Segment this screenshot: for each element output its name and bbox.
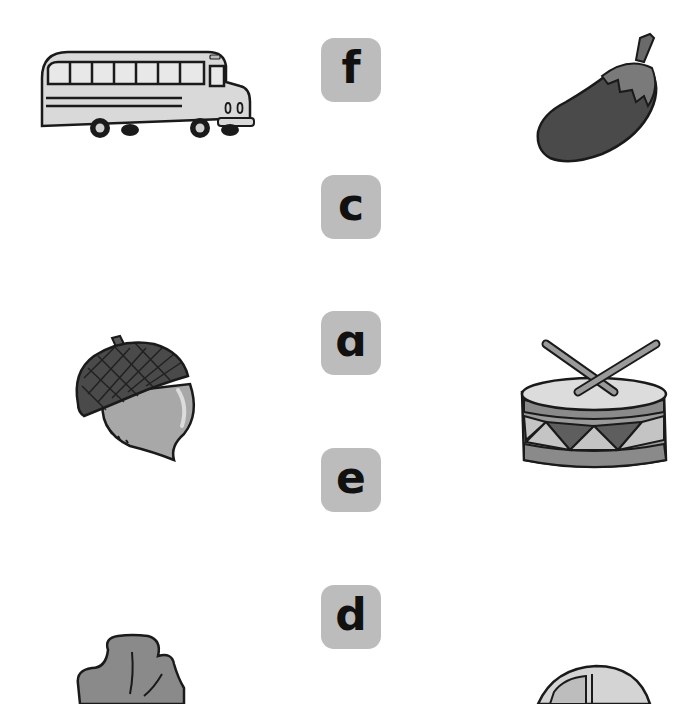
letter-f: f — [341, 46, 360, 90]
car-icon — [534, 664, 652, 704]
eggplant-icon — [536, 32, 660, 164]
letter-tile-c[interactable]: c — [321, 175, 381, 239]
car-picture[interactable] — [534, 664, 652, 704]
clover-icon — [74, 634, 192, 704]
letter-e: e — [336, 456, 366, 500]
acorn-picture[interactable] — [74, 334, 198, 462]
bus-picture[interactable] — [38, 48, 256, 140]
letter-tile-e[interactable]: e — [321, 448, 381, 512]
letter-d: d — [335, 593, 367, 637]
eggplant-picture[interactable] — [536, 32, 660, 164]
letter-a: ɑ — [335, 319, 367, 363]
letter-tile-a[interactable]: ɑ — [321, 311, 381, 375]
clover-picture[interactable] — [74, 634, 192, 704]
letter-tile-f[interactable]: f — [321, 38, 381, 102]
letter-c: c — [338, 183, 364, 227]
drum-icon — [518, 336, 670, 472]
drum-picture[interactable] — [518, 336, 670, 472]
bus-icon — [38, 48, 256, 140]
letter-tile-d[interactable]: d — [321, 585, 381, 649]
acorn-icon — [74, 334, 198, 462]
